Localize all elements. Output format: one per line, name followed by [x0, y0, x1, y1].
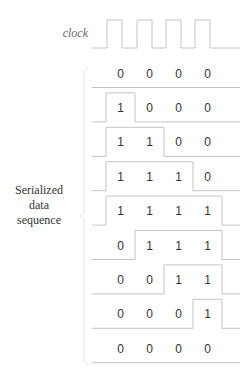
label-line: Serialized — [8, 183, 70, 198]
clock-waveform — [92, 20, 240, 48]
bit-value: 0 — [117, 307, 124, 321]
bit-value: 1 — [117, 204, 124, 218]
bit-value: 1 — [117, 101, 124, 115]
bit-value: 0 — [117, 342, 124, 356]
row-waveform — [92, 299, 240, 328]
bit-value: 1 — [175, 204, 182, 218]
bit-value: 0 — [204, 101, 211, 115]
row-waveform — [92, 196, 240, 225]
bit-value: 0 — [204, 170, 211, 184]
bit-value: 0 — [175, 135, 182, 149]
bit-value: 1 — [146, 204, 153, 218]
data-rows: 000010001100111011110111001100010000 — [92, 67, 240, 363]
bit-value: 0 — [146, 67, 153, 81]
bit-value: 0 — [204, 67, 211, 81]
row-waveform — [92, 162, 240, 191]
bit-value: 0 — [204, 135, 211, 149]
bit-value: 1 — [175, 273, 182, 287]
bit-value: 1 — [117, 170, 124, 184]
bit-value: 1 — [175, 170, 182, 184]
bit-value: 0 — [146, 342, 153, 356]
bit-value: 1 — [175, 239, 182, 253]
clock-signal — [92, 20, 240, 48]
bit-value: 1 — [204, 239, 211, 253]
bit-value: 0 — [146, 307, 153, 321]
bit-value: 1 — [146, 170, 153, 184]
bit-value: 0 — [175, 307, 182, 321]
row-waveform — [92, 127, 240, 156]
bit-value: 0 — [117, 239, 124, 253]
bit-value: 0 — [146, 101, 153, 115]
bit-value: 1 — [146, 239, 153, 253]
bit-value: 0 — [175, 67, 182, 81]
left-brace — [80, 68, 88, 364]
bit-value: 1 — [204, 273, 211, 287]
bit-value: 1 — [204, 307, 211, 321]
bit-value: 1 — [204, 204, 211, 218]
bit-value: 0 — [175, 101, 182, 115]
bit-value: 0 — [204, 342, 211, 356]
bit-value: 0 — [117, 67, 124, 81]
bit-value: 1 — [117, 135, 124, 149]
bit-value: 0 — [175, 342, 182, 356]
serialized-data-sequence-label: Serialized data sequence — [8, 183, 70, 228]
bit-value: 0 — [117, 273, 124, 287]
bit-value: 1 — [146, 135, 153, 149]
label-line: sequence — [8, 213, 70, 228]
clock-label: clock — [28, 26, 88, 41]
bit-value: 0 — [146, 273, 153, 287]
row-waveform — [92, 93, 240, 122]
label-line: data — [8, 198, 70, 213]
row-waveform — [92, 265, 240, 294]
row-waveform — [92, 231, 240, 260]
